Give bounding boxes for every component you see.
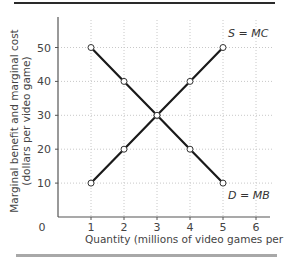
data-point-marker (121, 78, 127, 84)
y-axis-label-line1: Marginal benefit and marginal cost (8, 29, 20, 212)
plot-area: 10203040500123456S = MCD = MB (0, 0, 284, 262)
data-point-marker (220, 180, 226, 186)
x-axis-label: Quantity (millions of video games per ye… (85, 233, 265, 245)
data-point-marker (121, 146, 127, 152)
curve-label: D = MB (228, 189, 270, 202)
y-tick-label: 10 (37, 177, 51, 190)
x-tick-label: 0 (39, 221, 46, 234)
y-axis-label-line2: (dollars per video game) (20, 29, 32, 212)
y-tick-label: 20 (37, 143, 51, 156)
data-point-marker (154, 112, 160, 118)
curve-label: S = MC (228, 27, 269, 40)
data-point-marker (88, 180, 94, 186)
y-tick-label: 40 (37, 75, 51, 88)
data-point-marker (187, 146, 193, 152)
data-point-marker (88, 45, 94, 51)
y-axis-label: Marginal benefit and marginal cost (doll… (2, 26, 38, 216)
data-point-marker (187, 78, 193, 84)
y-tick-label: 50 (37, 42, 51, 55)
y-tick-label: 30 (37, 109, 51, 122)
data-point-marker (220, 45, 226, 51)
bottom-rule (16, 254, 277, 257)
